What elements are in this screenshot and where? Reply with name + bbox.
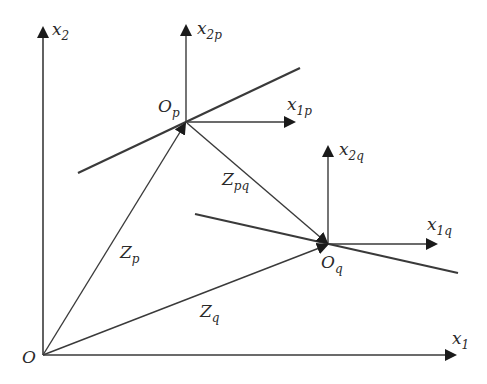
label-x1q: x1q (427, 214, 452, 238)
label-zq: Zq (199, 301, 220, 325)
coordinate-frames-diagram: O x1 x2 Op x1p x2p Oq x1q x2q Zp Zq Zpq (0, 0, 487, 384)
vector-zpq (187, 123, 327, 243)
line-p (78, 68, 300, 173)
label-x1p: x1p (287, 94, 312, 118)
label-x2q: x2q (339, 139, 364, 163)
label-x2: x2 (52, 19, 69, 43)
label-x2p: x2p (197, 18, 222, 42)
label-zp: Zp (119, 242, 140, 266)
vector-zq (43, 245, 327, 355)
label-oq: Oq (321, 252, 343, 276)
label-x1: x1 (452, 328, 469, 352)
label-origin-o: O (22, 347, 36, 367)
label-op: Op (158, 96, 180, 120)
vector-zp (43, 124, 185, 355)
